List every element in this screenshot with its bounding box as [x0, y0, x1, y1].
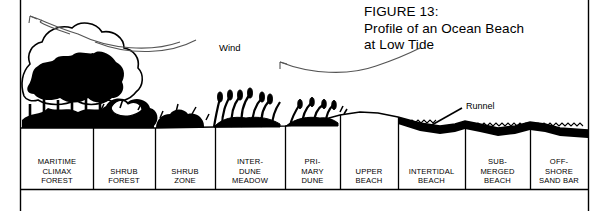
zone-label-upper-beach: UPPER BEACH: [340, 127, 398, 190]
wind-label: Wind: [219, 42, 241, 53]
zone-label-interdune-meadow: INTER- DUNE MEADOW: [215, 131, 285, 190]
zone-label-shrub-zone: SHRUB ZONE: [155, 131, 215, 190]
zone-label-offshore-sand-bar: OFF- SHORE SAND BAR: [530, 129, 588, 190]
interdune-meadow-grass: [214, 88, 280, 127]
runnel-label: Runnel: [466, 101, 495, 111]
beach-profile-figure: FIGURE 13: Profile of an Ocean Beach at …: [0, 0, 609, 211]
figure-title: FIGURE 13: Profile of an Ocean Beach at …: [364, 4, 524, 54]
primary-dune-grass: [286, 98, 347, 127]
zone-label-submerged-beach: SUB- MERGED BEACH: [465, 129, 530, 190]
zone-label-intertidal-beach: INTERTIDAL BEACH: [398, 131, 465, 190]
zone-label-shrub-forest: SHRUB FOREST: [93, 131, 155, 190]
shrub-zone-vegetation: [156, 104, 209, 128]
shrub-forest-vegetation: [95, 99, 157, 128]
zone-label-maritime-climax-forest: MARITIME CLIMAX FOREST: [21, 131, 93, 190]
zone-label-primary-dune: PRI- MARY DUNE: [285, 131, 340, 190]
